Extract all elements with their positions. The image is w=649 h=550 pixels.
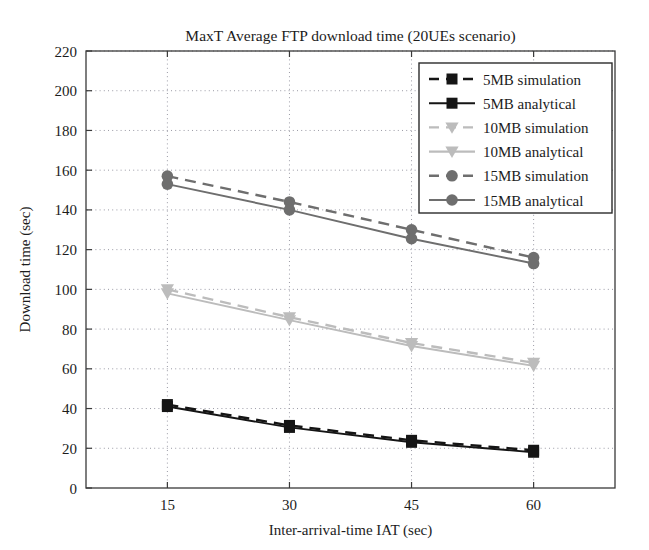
legend-label: 5MB analytical xyxy=(483,96,576,112)
legend-label: 10MB simulation xyxy=(483,120,589,136)
y-tick-label: 220 xyxy=(55,44,78,60)
legend-label: 10MB analytical xyxy=(483,144,583,160)
legend-label: 5MB simulation xyxy=(483,72,581,88)
x-tick-label: 45 xyxy=(404,497,419,513)
series-5mb-analytical xyxy=(162,401,539,458)
series-10mb-simulation xyxy=(161,284,540,369)
x-axis-title: Inter-arrival-time IAT (sec) xyxy=(269,522,433,539)
chart-title: MaxT Average FTP download time (20UEs sc… xyxy=(185,27,515,45)
x-tick-label: 15 xyxy=(160,497,175,513)
y-tick-label: 20 xyxy=(62,441,77,457)
legend: 5MB simulation5MB analytical10MB simulat… xyxy=(419,63,612,213)
y-tick-label: 120 xyxy=(55,242,78,258)
marker-circle xyxy=(284,204,296,216)
marker-triangle-down xyxy=(527,361,540,372)
y-tick-label: 200 xyxy=(55,83,78,99)
y-tick-label: 80 xyxy=(62,322,77,338)
marker-circle xyxy=(162,178,174,190)
marker-square xyxy=(447,98,458,109)
marker-square xyxy=(528,447,539,458)
y-tick-label: 100 xyxy=(55,282,78,298)
series-line xyxy=(167,405,533,451)
chart-canvas: MaxT Average FTP download time (20UEs sc… xyxy=(0,0,649,550)
y-tick-label: 180 xyxy=(55,123,78,139)
y-tick-label: 140 xyxy=(55,202,78,218)
marker-square xyxy=(447,74,458,85)
y-tick-label: 60 xyxy=(62,361,77,377)
series-line xyxy=(167,289,533,362)
marker-circle xyxy=(406,233,418,245)
x-tick-label: 30 xyxy=(282,497,297,513)
marker-square xyxy=(284,422,295,433)
marker-circle xyxy=(446,170,458,182)
marker-square xyxy=(162,401,173,412)
y-tick-label: 40 xyxy=(62,401,77,417)
y-tick-label: 0 xyxy=(70,481,78,497)
x-tick-label: 60 xyxy=(526,497,541,513)
marker-square xyxy=(406,437,417,448)
chart-figure: MaxT Average FTP download time (20UEs sc… xyxy=(0,0,649,550)
marker-circle xyxy=(528,258,540,270)
legend-label: 15MB simulation xyxy=(483,168,589,184)
y-tick-label: 160 xyxy=(55,163,78,179)
legend-label: 15MB analytical xyxy=(483,193,583,209)
marker-circle xyxy=(446,194,458,206)
y-axis-title: Download time (sec) xyxy=(17,207,34,333)
